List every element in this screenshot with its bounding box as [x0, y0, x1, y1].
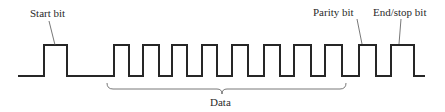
stop-bit-leader	[399, 19, 401, 44]
parity-bit-leader	[357, 19, 362, 44]
start-bit-leader	[49, 21, 55, 45]
data-label: Data	[210, 96, 231, 108]
stop-bit-label: End/stop bit	[373, 6, 426, 18]
start-bit-label: Start bit	[30, 7, 65, 19]
serial-frame-diagram: Start bit Parity bit End/stop bit Data	[0, 0, 445, 112]
waveform	[18, 45, 425, 76]
data-brace	[107, 83, 346, 94]
parity-bit-label: Parity bit	[313, 6, 354, 18]
